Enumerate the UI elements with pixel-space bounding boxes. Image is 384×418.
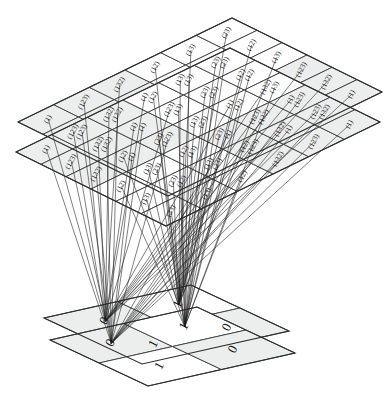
figure-canvas: (1)(123)(132)(12)(13)(23)(123)(132)(1)(1… bbox=[0, 0, 384, 418]
mapping-diagram: (1)(123)(132)(12)(13)(23)(123)(132)(1)(1… bbox=[0, 0, 384, 418]
